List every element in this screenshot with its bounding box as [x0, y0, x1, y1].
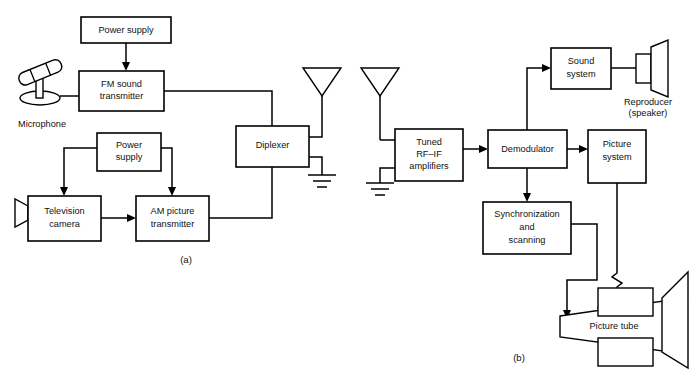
arrow-rf-to-demod [479, 145, 488, 153]
arrow-camera-to-am [127, 214, 136, 222]
picture-system-label-1: Picture [603, 139, 632, 149]
panel-b-caption: (b) [513, 352, 525, 363]
wire-psu-to-am [161, 148, 172, 189]
microphone-label: Microphone [18, 119, 66, 129]
receive-ground-icon [366, 183, 394, 195]
tuned-rf-if-label-2: RF–IF [416, 149, 442, 159]
block-diagram: Microphone Power supply FM sound transmi… [0, 0, 693, 375]
television-camera-label-2: camera [49, 219, 81, 229]
transmit-ground-icon [308, 175, 336, 187]
wire-fm-to-diplexer [164, 91, 272, 126]
sync-label-2: and [519, 222, 534, 232]
wire-demod-to-sound [527, 68, 544, 130]
wire-diplexer-to-antenna [309, 104, 322, 137]
picture-system-label-2: system [602, 152, 631, 162]
wire-rf-to-ground [380, 168, 395, 183]
power-supply-picture-label-2: supply [116, 152, 143, 162]
diplexer-label: Diplexer [256, 140, 290, 150]
picture-tube-icon [560, 272, 688, 368]
camera-lens-icon [15, 199, 28, 227]
power-supply-sound-label: Power supply [98, 25, 154, 35]
arrow-demod-to-sync [523, 193, 531, 202]
microphone-icon [17, 58, 79, 105]
panel-a-caption: (a) [180, 254, 192, 265]
fm-sound-transmitter-label-1: FM sound [101, 79, 142, 89]
television-camera-label-1: Television [44, 206, 84, 216]
arrow-demod-to-picture [579, 145, 588, 153]
wire-diplexer-to-ground [309, 157, 322, 175]
receive-antenna-icon [361, 68, 399, 140]
wire-psu-to-camera [64, 148, 97, 189]
sync-label-1: Synchronization [494, 209, 559, 219]
arrow-demod-to-sound [542, 64, 551, 72]
tuned-rf-if-label-3: amplifiers [409, 161, 449, 171]
sync-label-3: scanning [509, 235, 546, 245]
power-supply-picture-label-1: Power [116, 140, 142, 150]
reproducer-label-1: Reproducer [624, 97, 672, 107]
am-picture-transmitter-label-1: AM picture [151, 206, 195, 216]
tuned-rf-if-label-1: Tuned [416, 137, 442, 147]
fm-sound-transmitter-label-2: transmitter [100, 91, 143, 101]
figure-canvas: Microphone Power supply FM sound transmi… [0, 0, 693, 375]
sound-system-label-2: system [566, 69, 595, 79]
transmit-antenna-icon [303, 68, 341, 104]
reproducer-label-2: (speaker) [629, 108, 668, 118]
arrow-psu-to-camera [60, 187, 68, 196]
arrow-psu-to-fm [122, 62, 130, 71]
arrow-psu-to-am [168, 187, 176, 196]
demodulator-label: Demodulator [501, 144, 554, 154]
reproducer-speaker-icon [636, 40, 668, 97]
picture-tube-label: Picture tube [589, 321, 638, 331]
sound-system-label-1: Sound [568, 56, 595, 66]
am-picture-transmitter-label-2: transmitter [151, 219, 194, 229]
wire-am-to-diplexer [209, 167, 272, 218]
